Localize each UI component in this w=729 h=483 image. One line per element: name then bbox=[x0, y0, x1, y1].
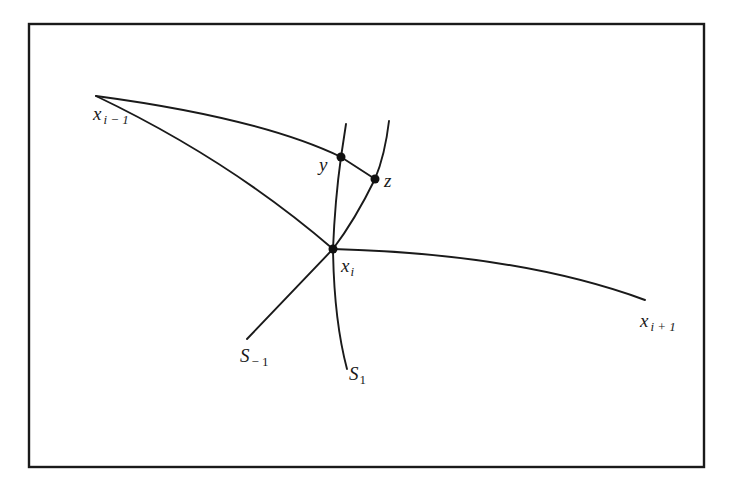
point-y bbox=[337, 153, 346, 162]
label-s-1: S1 bbox=[349, 363, 366, 387]
figure-frame bbox=[29, 24, 704, 467]
label-x-i: xi bbox=[340, 255, 354, 279]
label-z: z bbox=[383, 170, 392, 191]
curve-s-minus1 bbox=[247, 121, 389, 339]
label-y: y bbox=[317, 154, 328, 175]
point-z bbox=[371, 175, 380, 184]
segment-xi-to-xnext bbox=[333, 249, 645, 300]
arc-xprev-y-z bbox=[96, 96, 375, 179]
label-x-prev: xi − 1 bbox=[92, 103, 129, 127]
label-s-minus1: S− 1 bbox=[240, 345, 269, 369]
segment-xprev-to-xi bbox=[96, 96, 333, 249]
point-xi bbox=[329, 245, 338, 254]
label-x-next: xi + 1 bbox=[639, 310, 676, 334]
geodesic-diagram: xi − 1 y z xi xi + 1 S− 1 S1 bbox=[0, 0, 729, 483]
